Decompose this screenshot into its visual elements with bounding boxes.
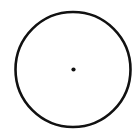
diagram-canvas (0, 0, 136, 137)
circle-diagram (0, 0, 136, 137)
center-point-dot (71, 67, 75, 71)
